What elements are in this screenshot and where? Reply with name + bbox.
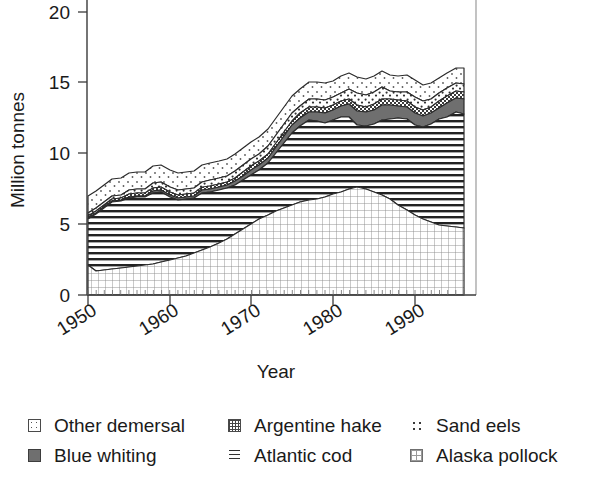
- chart-figure: 20 15 10 5 0 Million tonnes 1950 1960 19…: [0, 0, 602, 495]
- y-axis: 20 15 10 5 0 Million tonnes: [7, 0, 87, 306]
- legend-label-argentine-hake: Argentine hake: [254, 416, 382, 435]
- y-tick-label-20: 20: [49, 2, 70, 23]
- legend-item-atlantic-cod[interactable]: Atlantic cod: [228, 446, 410, 465]
- legend-swatch-blue-whiting-icon: [28, 449, 41, 462]
- legend-label-sand-eels: Sand eels: [436, 416, 521, 435]
- legend-swatch-argentine-hake-icon: [228, 419, 241, 432]
- y-tick-label-15: 15: [49, 72, 70, 93]
- legend-item-blue-whiting[interactable]: Blue whiting: [28, 446, 228, 465]
- legend-swatch-alaska-pollock-icon: [410, 449, 423, 462]
- x-tick-label-1970: 1970: [217, 299, 264, 339]
- legend-swatch-sand-eels-icon: [410, 419, 423, 432]
- x-axis-title: Year: [257, 361, 296, 382]
- legend-row-2: Blue whiting Atlantic cod Alaska pollock: [28, 440, 588, 470]
- legend-item-other-demersal[interactable]: Other demersal: [28, 416, 228, 435]
- legend-row-1: Other demersal Argentine hake Sand eels: [28, 410, 588, 440]
- legend-label-alaska-pollock: Alaska pollock: [436, 446, 557, 465]
- series-stack: [88, 68, 464, 295]
- x-tick-label-1990: 1990: [381, 299, 428, 339]
- x-tick-label-1960: 1960: [135, 299, 182, 339]
- legend-item-alaska-pollock[interactable]: Alaska pollock: [410, 446, 588, 465]
- y-tick-label-10: 10: [49, 143, 70, 164]
- legend-item-sand-eels[interactable]: Sand eels: [410, 416, 588, 435]
- y-axis-title: Million tonnes: [7, 92, 28, 208]
- chart-plot-area: 20 15 10 5 0 Million tonnes 1950 1960 19…: [0, 0, 602, 400]
- legend-label-other-demersal: Other demersal: [54, 416, 185, 435]
- chart-legend: Other demersal Argentine hake Sand eels …: [28, 410, 588, 470]
- y-tick-label-5: 5: [59, 214, 70, 235]
- legend-label-blue-whiting: Blue whiting: [54, 446, 156, 465]
- x-tick-label-1980: 1980: [299, 299, 346, 339]
- x-axis: 1950 1960 1970 1980 1990 Year: [53, 295, 476, 382]
- legend-label-atlantic-cod: Atlantic cod: [254, 446, 352, 465]
- stacked-area-chart: 20 15 10 5 0 Million tonnes 1950 1960 19…: [0, 0, 602, 400]
- legend-swatch-atlantic-cod-icon: [228, 449, 241, 462]
- legend-item-argentine-hake[interactable]: Argentine hake: [228, 416, 410, 435]
- legend-swatch-other-demersal-icon: [28, 419, 41, 432]
- y-tick-label-0: 0: [59, 285, 70, 306]
